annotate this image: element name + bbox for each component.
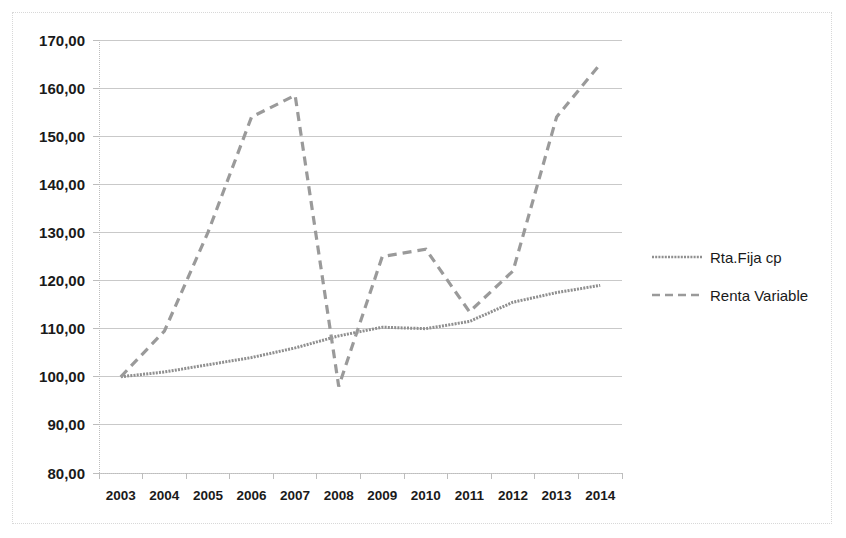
x-tick-label: 2010 (411, 488, 441, 503)
series-line-rta-fija-cp (121, 285, 600, 376)
x-tick-label: 2007 (280, 488, 310, 503)
x-axis-tick-labels: 2003200420052006200720082009201020112012… (106, 488, 616, 503)
y-axis-tick-labels: 80,0090,00100,00110,00120,00130,00140,00… (39, 32, 85, 482)
legend-label-renta-variable: Renta Variable (710, 287, 808, 304)
y-axis-ticks (93, 40, 99, 473)
y-tick-label: 130,00 (39, 224, 85, 241)
chart-legend: Rta.Fija cpRenta Variable (652, 249, 808, 304)
chart-container: 80,0090,00100,00110,00120,00130,00140,00… (0, 0, 846, 538)
x-tick-label: 2012 (498, 488, 528, 503)
y-tick-label: 80,00 (47, 465, 85, 482)
series-line-renta-variable (121, 64, 600, 386)
y-tick-label: 90,00 (47, 416, 85, 433)
series-lines-group (121, 64, 600, 386)
y-tick-label: 160,00 (39, 80, 85, 97)
x-tick-label: 2011 (455, 488, 485, 503)
y-tick-label: 170,00 (39, 32, 85, 49)
y-tick-label: 120,00 (39, 272, 85, 289)
gridlines-group (99, 40, 622, 473)
x-tick-label: 2003 (106, 488, 137, 503)
x-tick-label: 2006 (237, 488, 268, 503)
y-tick-label: 150,00 (39, 128, 85, 145)
y-tick-label: 100,00 (39, 368, 85, 385)
x-tick-label: 2008 (324, 488, 355, 503)
y-tick-label: 140,00 (39, 176, 85, 193)
x-tick-label: 2009 (367, 488, 397, 503)
x-tick-label: 2014 (585, 488, 616, 503)
x-axis-ticks (99, 473, 622, 479)
x-tick-label: 2013 (542, 488, 573, 503)
legend-label-rta-fija-cp: Rta.Fija cp (710, 249, 782, 266)
y-tick-label: 110,00 (40, 320, 85, 337)
line-chart: 80,0090,00100,00110,00120,00130,00140,00… (0, 0, 846, 538)
x-tick-label: 2004 (149, 488, 180, 503)
x-tick-label: 2005 (193, 488, 224, 503)
